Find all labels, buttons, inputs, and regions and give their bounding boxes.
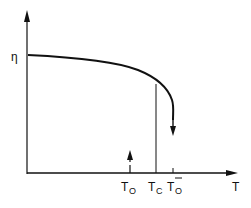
svg-text:C: C bbox=[156, 186, 163, 196]
arrow-up-icon bbox=[127, 150, 133, 160]
svg-text:O: O bbox=[175, 186, 182, 196]
x-axis-arrow-icon bbox=[226, 170, 238, 176]
y-axis-label: η bbox=[11, 50, 18, 64]
t0bar-label: T O bbox=[167, 178, 182, 196]
svg-text:T: T bbox=[148, 180, 156, 194]
x-axis-label: T bbox=[232, 180, 240, 194]
svg-text:T: T bbox=[121, 180, 129, 194]
x-axis bbox=[27, 170, 238, 176]
arrow-down-icon bbox=[170, 126, 176, 136]
svg-text:O: O bbox=[129, 186, 136, 196]
y-axis-arrow-icon bbox=[24, 10, 30, 22]
t0-label: T O bbox=[121, 180, 136, 196]
order-parameter-curve bbox=[28, 55, 173, 120]
y-axis bbox=[24, 10, 30, 174]
tc-label: T C bbox=[148, 180, 163, 196]
t0-up-arrow bbox=[127, 150, 133, 173]
jump-down-arrow bbox=[170, 118, 176, 136]
phase-diagram: η T T O T C T O bbox=[0, 0, 251, 208]
svg-text:T: T bbox=[167, 180, 175, 194]
